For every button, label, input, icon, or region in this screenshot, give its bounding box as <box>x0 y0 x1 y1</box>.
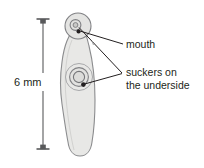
callout-suckers-label-line1: suckers on <box>126 66 177 78</box>
leech-diagram-figure: 6 mm <box>0 0 204 168</box>
head-sucker-inner <box>73 23 78 28</box>
body-sucker-target-dot <box>81 82 86 87</box>
body-sucker-inner-ring <box>73 71 84 82</box>
callout-suckers-label-line2: the underside <box>126 79 190 91</box>
scale-bar-group: 6 mm <box>14 19 55 149</box>
scale-bar-bottom-tick <box>40 145 46 150</box>
diagram-canvas: 6 mm <box>0 0 204 168</box>
mouth-dot <box>77 29 81 33</box>
callout-mouth-label: mouth <box>126 38 155 50</box>
callout-labels-group: mouth suckers on the underside <box>126 38 190 91</box>
scale-bar-top-tick <box>40 19 46 24</box>
scale-label: 6 mm <box>14 76 42 88</box>
